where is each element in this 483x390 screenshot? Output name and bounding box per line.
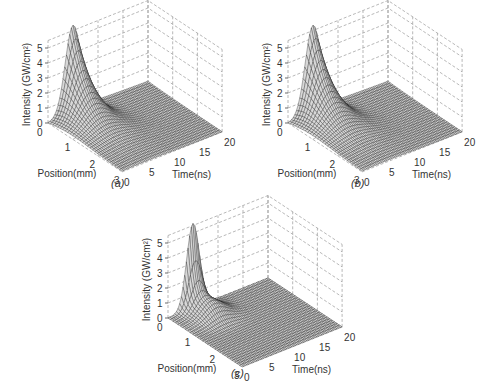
- svg-text:0: 0: [277, 127, 283, 138]
- z-tick-label: 2: [37, 88, 43, 99]
- z-tick-label: 3: [37, 73, 43, 84]
- x-axis-label: Position(mm): [278, 168, 337, 179]
- time-tick-label: 20: [224, 137, 236, 148]
- surface-mesh: [288, 25, 462, 171]
- z-tick-label: 1: [277, 103, 283, 114]
- y-axis-label: Time(ns): [172, 169, 211, 180]
- time-tick-label: 5: [389, 167, 395, 178]
- z-axis-label: Intensity (GW/cm²): [261, 43, 272, 126]
- position-tick-label: 1: [65, 142, 71, 153]
- panel-b: 012345012305101520Intensity (GW/cm²)Posi…: [240, 0, 483, 195]
- time-tick-label: 15: [199, 147, 211, 158]
- position-tick-label: 1: [185, 337, 191, 348]
- surface-plot-a: 012345012305101520Intensity (GW/cm²)Posi…: [0, 0, 240, 195]
- panel-a: 012345012305101520Intensity (GW/cm²)Posi…: [0, 0, 240, 195]
- time-tick-label: 10: [414, 157, 426, 168]
- z-axis-label: Intensity (GW/cm²): [141, 238, 152, 321]
- x-axis-label: Position(mm): [38, 168, 97, 179]
- z-tick-label: 4: [157, 253, 163, 264]
- y-axis-label: Time(ns): [412, 169, 451, 180]
- z-tick-label: 5: [37, 43, 43, 54]
- time-tick-label: 0: [244, 372, 250, 383]
- surface-mesh: [168, 223, 342, 366]
- position-tick-label: 1: [305, 142, 311, 153]
- caption-b: (b): [351, 177, 364, 189]
- caption-a: (a): [111, 177, 124, 189]
- time-tick-label: 10: [174, 157, 186, 168]
- svg-text:0: 0: [37, 127, 43, 138]
- time-tick-label: 20: [464, 137, 476, 148]
- z-axis-label: Intensity (GW/cm²): [21, 43, 32, 126]
- z-tick-label: 3: [277, 73, 283, 84]
- svg-text:0: 0: [157, 322, 163, 333]
- y-axis-label: Time(ns): [292, 364, 331, 375]
- time-tick-label: 5: [269, 362, 275, 373]
- time-tick-label: 10: [294, 352, 306, 363]
- z-tick-label: 4: [37, 58, 43, 69]
- surface-plot-b: 012345012305101520Intensity (GW/cm²)Posi…: [240, 0, 483, 195]
- time-tick-label: 15: [319, 342, 331, 353]
- z-tick-label: 1: [157, 298, 163, 309]
- surface-plot-c: 012345012305101520Intensity (GW/cm²)Posi…: [120, 195, 360, 390]
- z-tick-label: 2: [157, 283, 163, 294]
- time-tick-label: 0: [364, 177, 370, 188]
- time-tick-label: 5: [149, 167, 155, 178]
- z-tick-label: 2: [277, 88, 283, 99]
- surface-mesh: [48, 25, 222, 171]
- z-tick-label: 5: [157, 238, 163, 249]
- time-tick-label: 0: [124, 177, 130, 188]
- time-tick-label: 20: [344, 332, 356, 343]
- caption-c: (c): [231, 367, 244, 379]
- z-tick-label: 5: [277, 43, 283, 54]
- z-tick-label: 4: [277, 58, 283, 69]
- x-axis-label: Position(mm): [158, 363, 217, 374]
- panel-c: 012345012305101520Intensity (GW/cm²)Posi…: [120, 195, 360, 390]
- time-tick-label: 15: [439, 147, 451, 158]
- z-tick-label: 3: [157, 268, 163, 279]
- z-tick-label: 1: [37, 103, 43, 114]
